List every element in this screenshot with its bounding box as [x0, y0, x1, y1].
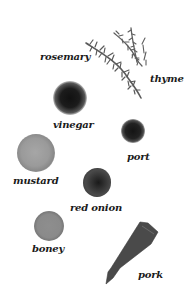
pork-label: pork [138, 270, 163, 280]
pork-illustration [0, 0, 187, 293]
ingredient-illustration: rosemary thyme vinegar port mustard red … [0, 0, 187, 293]
